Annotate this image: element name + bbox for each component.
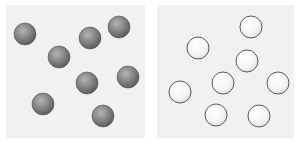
filled-particle	[117, 66, 139, 88]
hollow-particle	[169, 81, 191, 103]
hollow-particle	[240, 16, 262, 38]
hollow-particle	[236, 50, 258, 72]
hollow-particle	[187, 37, 209, 59]
hollow-particle	[212, 72, 234, 94]
filled-particle	[108, 16, 130, 38]
filled-particle	[32, 93, 54, 115]
filled-particle	[14, 23, 36, 45]
filled-particle	[48, 46, 70, 68]
hollow-particle	[267, 72, 289, 94]
filled-particle	[76, 72, 98, 94]
hollow-particle	[205, 104, 227, 126]
filled-particle	[79, 27, 101, 49]
hollow-particle	[248, 105, 270, 127]
filled-particle	[92, 105, 114, 127]
figure	[0, 0, 300, 143]
